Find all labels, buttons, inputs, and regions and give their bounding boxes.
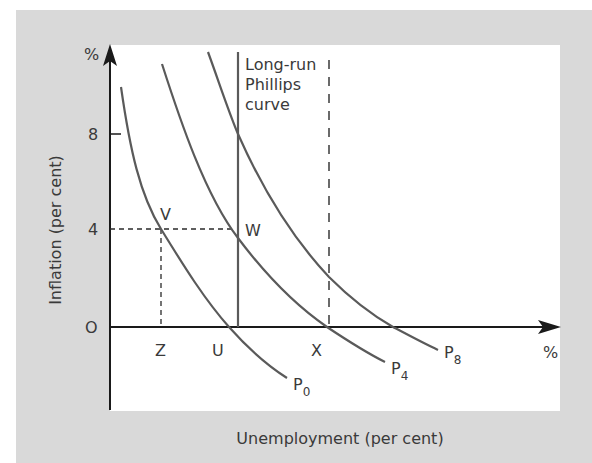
curve-p8: [208, 52, 438, 350]
lrpc-annotation-line2: Phillips: [245, 75, 301, 94]
curve-p4-label-main: P: [391, 359, 401, 378]
curve-p8-label-sub: 8: [454, 353, 462, 367]
curve-p4-label: P4: [391, 359, 408, 383]
lrpc-annotation-line3: curve: [245, 95, 290, 114]
x-point-z: Z: [155, 341, 166, 360]
origin-label: O: [85, 318, 98, 337]
y-tick-label-8: 8: [88, 125, 98, 144]
curve-p8-label: P8: [444, 343, 461, 367]
x-point-x: X: [311, 341, 322, 360]
curve-p0-label-main: P: [293, 375, 303, 394]
lrpc-annotation-line1: Long-run: [245, 55, 316, 74]
curve-p0-label: P0: [293, 375, 310, 399]
point-w-label: W: [245, 221, 261, 240]
x-axis-title: Unemployment (per cent): [236, 429, 443, 448]
phillips-curve-diagram: % 8 4 O % Z U X V W Long-run Phillips cu…: [0, 0, 592, 463]
y-tick-label-4: 4: [88, 220, 98, 239]
curve-p8-label-main: P: [444, 343, 454, 362]
x-unit-label: %: [543, 343, 558, 362]
x-point-u: U: [212, 341, 224, 360]
curve-p0-label-sub: 0: [303, 385, 311, 399]
curve-p4-label-sub: 4: [401, 369, 409, 383]
y-axis-title: Inflation (per cent): [46, 155, 65, 305]
y-unit-label: %: [84, 45, 99, 64]
curve-p0: [121, 87, 287, 378]
point-v-label: V: [160, 205, 171, 224]
